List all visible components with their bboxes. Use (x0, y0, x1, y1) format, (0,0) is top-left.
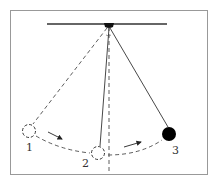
bob-position-1 (23, 125, 36, 138)
string-position-3 (110, 28, 168, 127)
string-position-2 (100, 28, 109, 146)
pendulum-diagram: 1 2 3 (0, 0, 218, 187)
label-position-1: 1 (26, 141, 33, 154)
motion-arrow-2 (124, 142, 141, 147)
bob-position-3 (162, 127, 176, 141)
motion-arrow-1 (48, 132, 62, 139)
label-position-3: 3 (172, 144, 179, 157)
string-position-1 (33, 28, 107, 124)
bob-position-2 (92, 147, 105, 160)
label-position-2: 2 (82, 157, 89, 170)
